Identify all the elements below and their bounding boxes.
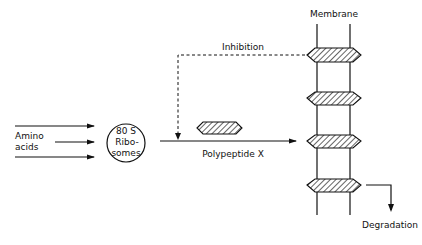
inhibition-line [178, 55, 305, 134]
degradation-label: Degradation [362, 220, 418, 230]
degradation-line [366, 185, 391, 210]
inhibition-arrowhead [175, 133, 181, 140]
membrane-protein-4 [307, 179, 361, 192]
membrane-protein-2 [307, 92, 361, 105]
membrane-proteins [307, 48, 361, 192]
ribosome-label-1: 80 S [116, 126, 136, 136]
polypeptide-label: Polypeptide X [202, 149, 264, 159]
membrane-label: Membrane [310, 9, 359, 19]
amino-label-2: acids [15, 142, 39, 152]
polypeptide-hexagon [197, 122, 242, 134]
ribosome-label-2: Ribo- [115, 137, 138, 147]
membrane-protein-3 [307, 135, 361, 148]
amino-label-1: Amino [15, 131, 44, 141]
membrane-protein-1 [307, 48, 361, 62]
ribosome-label-3: somes [111, 148, 140, 158]
diagram-canvas: Amino acids 80 S Ribo- somes Polypeptide… [0, 0, 422, 245]
inhibition-label: Inhibition [222, 42, 264, 52]
degradation-arrowhead [388, 204, 394, 212]
